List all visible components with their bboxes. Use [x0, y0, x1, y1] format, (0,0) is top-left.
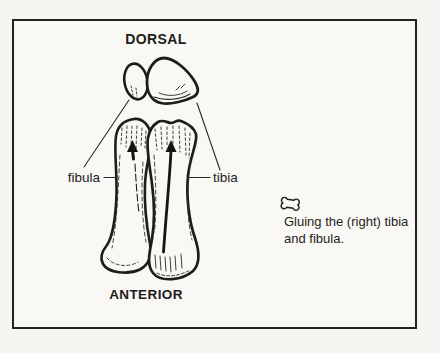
fibula-label: fibula: [48, 170, 100, 185]
tibia-shaft: [147, 120, 198, 279]
bone-icon: [281, 197, 300, 210]
caption-line-1: Gluing the (right) tibia: [284, 213, 414, 230]
anterior-label: ANTERIOR: [96, 287, 196, 302]
diagram-stage: DORSAL ANTERIOR fibula tibia Gluing the …: [0, 0, 440, 353]
leader-line-right: [197, 103, 220, 170]
tibia-plateau-cross-section: [147, 58, 198, 104]
caption-line-2: and fibula.: [284, 230, 414, 247]
fibula-shaft: [101, 119, 151, 273]
tibia-label: tibia: [213, 170, 238, 185]
figure-caption: Gluing the (right) tibia and fibula.: [284, 213, 414, 247]
dorsal-label: DORSAL: [106, 31, 206, 47]
